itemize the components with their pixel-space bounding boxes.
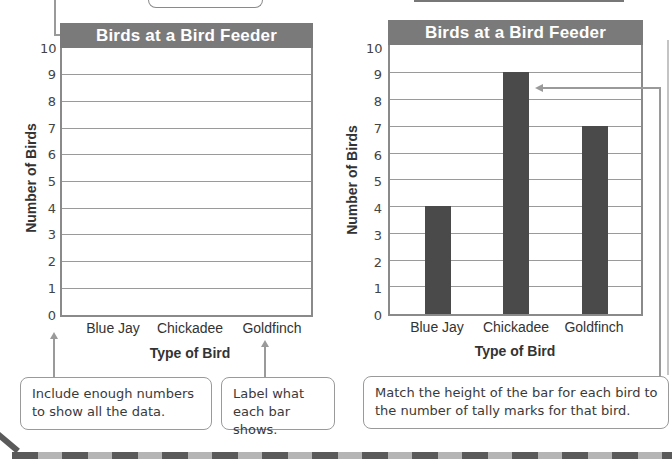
callout-label-text: Label what each bar shows. xyxy=(233,386,304,437)
top-callout-remnant-right xyxy=(414,0,624,2)
right-ytick-10: 10 xyxy=(366,42,382,56)
corner-decoration xyxy=(0,432,20,453)
gridline-5 xyxy=(62,181,311,182)
right-ytick-7: 7 xyxy=(366,122,382,136)
left-ytick-10: 10 xyxy=(40,42,56,56)
left-xtick-blue-jay: Blue Jay xyxy=(80,320,146,336)
right-ytick-3: 3 xyxy=(366,229,382,243)
gridline-6 xyxy=(62,154,311,155)
left-xtick-chickadee: Chickadee xyxy=(152,320,228,336)
right-chart-xlabel: Type of Bird xyxy=(455,343,575,359)
left-chart-plot-area xyxy=(60,48,313,317)
right-ytick-6: 6 xyxy=(366,149,382,163)
match-connector-vertical xyxy=(659,87,661,377)
left-ytick-4: 4 xyxy=(40,202,56,216)
callout-label: Label what each bar shows. xyxy=(221,377,335,430)
left-chart-xlabel: Type of Bird xyxy=(130,345,250,361)
callout-match-text: Match the height of the bar for each bir… xyxy=(375,385,658,418)
left-chart-title: Birds at a Bird Feeder xyxy=(60,23,313,48)
footer-stripe xyxy=(12,452,672,459)
right-ytick-1: 1 xyxy=(366,282,382,296)
left-ytick-6: 6 xyxy=(40,148,56,162)
right-ytick-8: 8 xyxy=(366,95,382,109)
left-ytick-1: 1 xyxy=(40,282,56,296)
match-connector-horizontal xyxy=(543,87,660,89)
right-ytick-5: 5 xyxy=(366,175,382,189)
right-chart-plot-area xyxy=(388,45,643,316)
left-ytick-0: 0 xyxy=(40,309,56,323)
left-ytick-2: 2 xyxy=(40,255,56,269)
right-xtick-blue-jay: Blue Jay xyxy=(404,319,470,335)
bar-blue-jay xyxy=(425,206,451,314)
frame-right-edge xyxy=(667,40,669,375)
right-ytick-4: 4 xyxy=(366,202,382,216)
numbers-connector xyxy=(53,338,55,378)
left-ytick-8: 8 xyxy=(40,95,56,109)
right-chart-ylabel: Number of Birds xyxy=(344,122,360,238)
left-ytick-9: 9 xyxy=(40,68,56,82)
top-callout-remnant-left xyxy=(148,0,263,8)
right-ytick-0: 0 xyxy=(366,309,382,323)
gridline-3 xyxy=(62,234,311,235)
left-ytick-5: 5 xyxy=(40,175,56,189)
bar-chickadee xyxy=(503,72,529,314)
match-arrow-icon xyxy=(535,84,543,92)
gridline-7 xyxy=(62,128,311,129)
callout-numbers: Include enough numbers to show all the d… xyxy=(20,377,212,430)
right-ytick-9: 9 xyxy=(366,68,382,82)
title-connector-vertical xyxy=(54,0,56,35)
right-chart-title: Birds at a Bird Feeder xyxy=(388,20,643,45)
right-xtick-goldfinch: Goldfinch xyxy=(556,319,632,335)
gridline-2 xyxy=(62,261,311,262)
right-xtick-chickadee: Chickadee xyxy=(478,319,554,335)
label-connector xyxy=(264,346,266,378)
callout-numbers-text: Include enough numbers to show all the d… xyxy=(32,386,194,419)
left-chart-ylabel: Number of Birds xyxy=(23,120,39,236)
bar-goldfinch xyxy=(582,126,608,314)
gridline-9 xyxy=(62,74,311,75)
right-ytick-2: 2 xyxy=(366,256,382,270)
gridline-4 xyxy=(62,208,311,209)
left-ytick-7: 7 xyxy=(40,122,56,136)
callout-match: Match the height of the bar for each bir… xyxy=(363,376,669,429)
left-ytick-3: 3 xyxy=(40,228,56,242)
left-xtick-goldfinch: Goldfinch xyxy=(234,320,310,336)
gridline-8 xyxy=(62,101,311,102)
gridline-1 xyxy=(62,288,311,289)
